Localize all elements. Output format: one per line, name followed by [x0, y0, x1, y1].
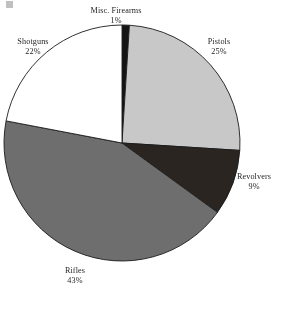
pie-chart-figure: Misc. Firearms 1% Pistols 25% Revolvers …	[0, 0, 282, 309]
slice-label-rifles: Rifles 43%	[42, 266, 108, 286]
slice-label-revolvers: Revolvers 9%	[226, 172, 282, 192]
slice-label-name: Pistols	[186, 37, 252, 47]
slice-label-name: Misc. Firearms	[64, 6, 168, 16]
slice-label-name: Revolvers	[226, 172, 282, 182]
slice-label-shotguns: Shotguns 22%	[0, 37, 66, 57]
slice-label-misc-firearms: Misc. Firearms 1%	[64, 6, 168, 26]
slice-label-value: 9%	[226, 182, 282, 192]
slice-label-name: Rifles	[42, 266, 108, 276]
slice-label-pistols: Pistols 25%	[186, 37, 252, 57]
slice-label-value: 25%	[186, 47, 252, 57]
slice-label-name: Shotguns	[0, 37, 66, 47]
pie-slice-group	[4, 25, 240, 261]
slice-label-value: 43%	[42, 276, 108, 286]
slice-label-value: 22%	[0, 47, 66, 57]
slice-label-value: 1%	[64, 16, 168, 26]
